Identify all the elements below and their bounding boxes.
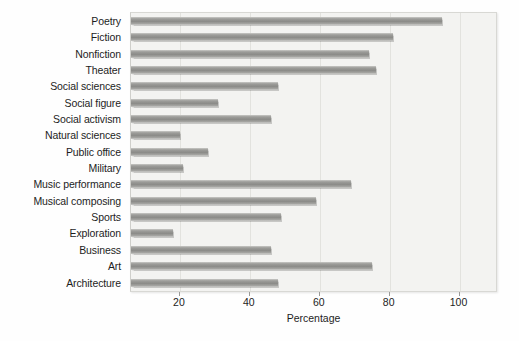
y-axis-label: Music performance — [0, 176, 126, 192]
plot-area — [130, 12, 497, 292]
y-axis-label: Social activism — [0, 111, 126, 127]
y-axis-label: Musical composing — [0, 193, 126, 209]
y-axis-label: Social sciences — [0, 78, 126, 94]
x-tick-label: 100 — [450, 296, 468, 308]
y-axis-label: Fiction — [0, 29, 126, 45]
bar-row — [131, 112, 496, 128]
bar — [131, 148, 208, 156]
y-axis-label: Sports — [0, 209, 126, 225]
y-axis-label: Exploration — [0, 225, 126, 241]
bar — [131, 115, 271, 123]
y-axis-label: Theater — [0, 62, 126, 78]
bar — [131, 229, 173, 237]
bar — [131, 82, 278, 90]
bar — [131, 279, 278, 287]
bar-row — [131, 243, 496, 259]
bar-row — [131, 63, 496, 79]
bar-row — [131, 128, 496, 144]
bar — [131, 164, 183, 172]
bar-row — [131, 226, 496, 242]
bar — [131, 66, 376, 74]
x-tick-label: 80 — [383, 296, 395, 308]
y-axis-label: Military — [0, 160, 126, 176]
y-axis-label: Nonfiction — [0, 46, 126, 62]
bar-row — [131, 161, 496, 177]
y-axis-label: Public office — [0, 144, 126, 160]
bar-row — [131, 210, 496, 226]
bar — [131, 33, 393, 41]
y-axis-label: Business — [0, 242, 126, 258]
y-axis-category-labels: PoetryFictionNonfictionTheaterSocial sci… — [0, 13, 126, 291]
x-axis-ticks: 20406080100 — [130, 292, 497, 310]
bar-series — [131, 14, 496, 291]
bar — [131, 180, 351, 188]
y-axis-label: Art — [0, 258, 126, 274]
bar — [131, 99, 218, 107]
bar-chart: PoetryFictionNonfictionTheaterSocial sci… — [0, 0, 519, 341]
x-tick-label: 40 — [243, 296, 255, 308]
bar-row — [131, 14, 496, 30]
bar-row — [131, 79, 496, 95]
bar — [131, 262, 372, 270]
bar-row — [131, 276, 496, 292]
y-axis-label: Social figure — [0, 95, 126, 111]
bar-row — [131, 47, 496, 63]
y-axis-label: Architecture — [0, 275, 126, 291]
bar — [131, 246, 271, 254]
bar-row — [131, 194, 496, 210]
y-axis-label: Natural sciences — [0, 127, 126, 143]
bar-row — [131, 145, 496, 161]
y-axis-label: Poetry — [0, 13, 126, 29]
bar-row — [131, 96, 496, 112]
x-tick-label: 20 — [173, 296, 185, 308]
bar — [131, 50, 369, 58]
bar — [131, 197, 316, 205]
bar-row — [131, 30, 496, 46]
bar — [131, 17, 442, 25]
bar-row — [131, 259, 496, 275]
x-tick-label: 60 — [313, 296, 325, 308]
x-axis-title: Percentage — [130, 312, 497, 324]
bar-row — [131, 177, 496, 193]
bar — [131, 213, 281, 221]
bar — [131, 131, 180, 139]
